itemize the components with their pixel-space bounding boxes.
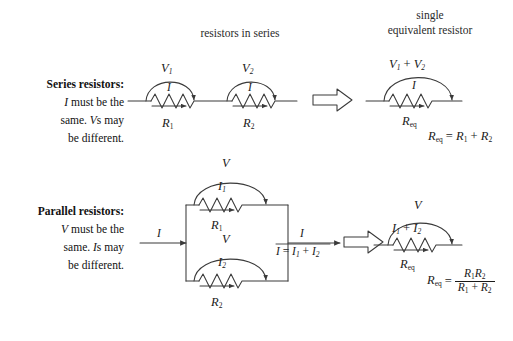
label-I1: I1 <box>218 180 226 194</box>
label-I1-plus-I2: I1 + I2 <box>392 222 421 236</box>
parallel-caption-line3-pre: same. <box>64 241 93 253</box>
label-V2-sub: 2 <box>250 67 254 76</box>
label-V-branch-bottom: V <box>222 233 230 246</box>
label-V1-sub: 1 <box>169 67 173 76</box>
label-V-eq-parallel: V <box>414 199 422 212</box>
formula-parallel-eq: = <box>442 275 455 288</box>
series-caption-line3-pre: same. <box>60 114 89 126</box>
label-output-current-I: I <box>300 228 304 240</box>
label-I1-plus-I2-op: + <box>403 221 410 235</box>
label-R2-parallel-sub: 2 <box>219 301 223 310</box>
parallel-caption-line3: same. Is may <box>0 242 124 254</box>
label-R1: R1 <box>162 117 173 131</box>
label-V-branch-top: V <box>222 157 230 170</box>
den-t1: R <box>458 281 465 293</box>
label-I-R2: I <box>248 82 252 94</box>
formula-parallel-equivalent: Req = R1R2 R1 + R2 <box>427 268 495 294</box>
label-R1-sym: R <box>162 116 170 130</box>
label-V1-plus-V2-a: V <box>389 57 397 71</box>
kcl-t2-sub: 2 <box>316 250 320 259</box>
parallel-caption-line4: be different. <box>0 260 124 272</box>
label-Req-parallel-sub: eq <box>408 263 415 272</box>
formula-series-lhs: R <box>428 129 436 143</box>
label-V1-plus-V2-op: + <box>404 57 411 71</box>
series-caption-line3-post: s may <box>97 114 124 126</box>
formula-series-t2-sub: 2 <box>488 135 492 144</box>
label-R2-sub: 2 <box>251 122 255 131</box>
kcl-eq: = <box>283 245 290 257</box>
label-V2: V2 <box>242 62 253 76</box>
header-equivalent-line1: single <box>355 10 505 22</box>
series-caption-line3-symbol: V <box>90 114 97 126</box>
label-I-R1: I <box>167 82 171 94</box>
formula-series-equivalent: Req = R1 + R2 <box>428 130 492 144</box>
label-Req-series-sym: R <box>402 114 410 128</box>
num-t2: R <box>475 267 482 279</box>
formula-parallel-fraction: R1R2 R1 + R2 <box>455 268 495 294</box>
label-input-current-I: I <box>157 228 161 240</box>
implies-arrow-parallel <box>344 231 383 253</box>
label-R2-sym: R <box>243 116 251 130</box>
formula-series-lhs-sub: eq <box>436 135 443 144</box>
formula-series-op: + <box>471 129 478 143</box>
formula-series-t1: R <box>456 129 464 143</box>
parallel-caption-title: Parallel resistors: <box>0 206 124 218</box>
formula-series-eq: = <box>446 129 453 143</box>
formula-parallel-numerator: R1R2 <box>455 268 495 281</box>
label-Req-parallel: Req <box>400 258 415 272</box>
equation-kcl: I = I1 + I2 <box>276 246 320 259</box>
label-R1-parallel-sym: R <box>211 218 219 232</box>
parallel-caption-line3-post: s may <box>97 241 124 253</box>
label-V1-sym: V <box>161 61 169 75</box>
label-R2: R2 <box>243 117 254 131</box>
parallel-caption-line2: V must be the <box>0 224 124 236</box>
series-caption-line2: I must be the <box>0 97 124 109</box>
label-Req-series: Req <box>402 115 417 129</box>
num-t1: R <box>464 267 471 279</box>
series-caption-line4: be different. <box>0 133 124 145</box>
kcl-op: + <box>303 245 310 257</box>
series-caption-line2-rest: must be the <box>68 96 124 108</box>
label-I-Req-series: I <box>412 80 416 92</box>
den-op: + <box>471 281 478 293</box>
formula-parallel-lhs-group: Req <box>427 274 442 288</box>
label-V1-plus-V2: V1 + V2 <box>389 58 425 72</box>
figure-canvas: resistors in series single equivalent re… <box>0 0 513 341</box>
parallel-caption-line2-rest: must be the <box>68 223 124 235</box>
label-R2-parallel-sym: R <box>211 295 219 309</box>
label-R1-sub: 1 <box>170 122 174 131</box>
label-I2-sub: 2 <box>222 261 226 270</box>
label-V1: V1 <box>161 62 172 76</box>
formula-parallel-lhs-sub: eq <box>435 279 442 288</box>
label-V1-plus-V2-b-sub: 2 <box>421 63 425 72</box>
series-caption-title: Series resistors: <box>0 79 124 91</box>
label-R2-parallel: R2 <box>211 296 222 310</box>
den-t2-sub: 2 <box>488 286 492 295</box>
label-V2-sym: V <box>242 61 250 75</box>
label-I2: I2 <box>218 256 226 270</box>
formula-parallel-denominator: R1 + R2 <box>455 281 495 295</box>
den-t2: R <box>481 281 488 293</box>
label-R1-parallel: R1 <box>211 219 222 233</box>
label-I1-sub: 1 <box>222 185 226 194</box>
formula-parallel-lhs: R <box>427 273 435 287</box>
label-I1-plus-I2-b-sub: 2 <box>417 227 421 236</box>
header-resistors-in-series: resistors in series <box>170 28 310 40</box>
implies-arrow-series <box>313 89 352 111</box>
series-caption-title-text: Series resistors: <box>47 78 124 90</box>
label-Req-parallel-sym: R <box>400 257 408 271</box>
series-caption-line3: same. Vs may <box>0 115 124 127</box>
scan-artifact <box>6 0 9 8</box>
parallel-caption-title-text: Parallel resistors: <box>38 205 124 217</box>
header-equivalent-line2: equivalent resistor <box>355 25 505 37</box>
label-Req-series-sub: eq <box>410 120 417 129</box>
